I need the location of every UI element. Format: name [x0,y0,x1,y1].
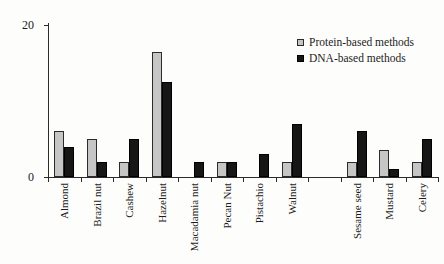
x-tick [373,178,374,182]
x-label-pecan-nut: Pecan Nut [221,183,233,229]
legend-label: DNA-based methods [309,52,406,65]
legend-item-dna-based-methods: DNA-based methods [297,52,414,65]
legend-label: Protein-based methods [309,36,414,49]
bar-walnut-protein-based-methods [282,162,292,177]
x-label-sesame-seed: Sesame seed [351,183,363,239]
bar-almond-dna-based-methods [64,147,74,177]
x-tick [438,178,439,182]
x-label-walnut: Walnut [286,183,298,215]
y-tick-20 [44,25,48,26]
x-tick [243,178,244,182]
bar-hazelnut-dna-based-methods [162,82,172,177]
bar-pecan-nut-dna-based-methods [227,162,237,177]
bar-sesame-seed-protein-based-methods [347,162,357,177]
x-tick [341,178,342,182]
y-axis [48,23,49,178]
protein-methods-swatch-icon [297,39,304,46]
bar-cashew-dna-based-methods [129,139,139,177]
x-label-almond: Almond [58,183,70,219]
bar-pistachio-dna-based-methods [259,154,269,177]
bar-chart-figure: 20 0 AlmondBrazil nutCashewHazelnutMacad… [0,0,444,264]
bar-sesame-seed-dna-based-methods [357,131,367,177]
bar-brazil-nut-protein-based-methods [87,139,97,177]
x-label-brazil-nut: Brazil nut [91,183,103,227]
x-label-pistachio: Pistachio [253,183,265,223]
x-label-hazelnut: Hazelnut [156,183,168,223]
bar-celery-dna-based-methods [422,139,432,177]
bar-walnut-dna-based-methods [292,124,302,177]
bar-brazil-nut-dna-based-methods [97,162,107,177]
x-tick [406,178,407,182]
x-label-celery: Celery [416,183,428,212]
dna-methods-swatch-icon [297,55,304,62]
bar-pecan-nut-protein-based-methods [217,162,227,177]
bar-almond-protein-based-methods [54,131,64,177]
x-label-macadamia-nut: Macadamia nut [188,183,200,251]
bar-mustard-dna-based-methods [389,169,399,177]
x-tick [276,178,277,182]
x-label-mustard: Mustard [383,183,395,220]
x-tick [81,178,82,182]
x-label-cashew: Cashew [123,183,135,218]
bar-macadamia-nut-dna-based-methods [194,162,204,177]
y-axis-tick-label-0: 0 [8,171,34,183]
x-tick [48,178,49,182]
bar-celery-protein-based-methods [412,162,422,177]
legend-item-protein-based-methods: Protein-based methods [297,36,414,49]
x-tick [211,178,212,182]
x-tick [146,178,147,182]
y-axis-tick-label-20: 20 [8,19,34,31]
x-tick [178,178,179,182]
bar-cashew-protein-based-methods [119,162,129,177]
x-tick [113,178,114,182]
bar-hazelnut-protein-based-methods [152,52,162,177]
x-tick [308,178,309,182]
legend: Protein-based methodsDNA-based methods [297,36,414,65]
bar-mustard-protein-based-methods [379,150,389,177]
